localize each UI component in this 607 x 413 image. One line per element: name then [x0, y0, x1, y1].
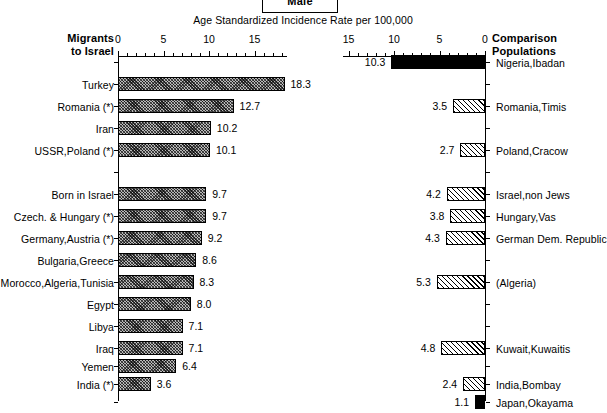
- right-row-tick: [486, 304, 490, 305]
- table-row: Turkey18.3: [0, 75, 606, 97]
- left-bar: [118, 209, 206, 223]
- right-row-tick: [486, 62, 490, 63]
- left-panel-heading-line1: Migrants: [22, 32, 114, 45]
- table-row: USSR,Poland (*)Poland,Cracow10.12.7: [0, 141, 606, 163]
- left-row-label: Libya: [89, 320, 114, 334]
- axis-title: Age Standardized Incidence Rate per 100,…: [0, 14, 606, 26]
- left-row-label: India (*): [77, 378, 114, 392]
- right-row-label: India,Bombay: [496, 378, 561, 392]
- right-axis-tick-label-10: 10: [381, 33, 407, 45]
- left-bar-value: 10.2: [217, 122, 237, 134]
- right-bar-value: 2.7: [424, 144, 454, 156]
- table-row: Bulgaria,Greece8.6: [0, 251, 606, 273]
- right-bar: [441, 341, 485, 355]
- right-bar-value: 5.3: [401, 276, 431, 288]
- sex-title-box: Male: [262, 0, 338, 13]
- left-bar-value: 9.7: [212, 188, 227, 200]
- right-bar-value: 3.8: [414, 210, 444, 222]
- left-bar: [118, 319, 183, 333]
- right-row-tick: [486, 402, 490, 403]
- left-bar: [118, 253, 196, 267]
- left-row-label: Yemen: [81, 360, 114, 374]
- left-axis-tick-label-5: 5: [151, 33, 177, 45]
- left-axis-baseline: [118, 56, 119, 401]
- right-row-label: Kuwait,Kuwaitis: [496, 342, 570, 356]
- right-row-tick: [486, 384, 490, 385]
- left-row-tick: [114, 402, 118, 403]
- right-row-tick: [486, 128, 490, 129]
- left-bar: [118, 297, 191, 311]
- right-axis-tick-label-15: 15: [336, 33, 362, 45]
- left-axis-tick-label-0: 0: [105, 33, 131, 45]
- table-row: Morocco,Algeria,Tunisia(Algeria)8.35.3: [0, 273, 606, 295]
- right-row-tick: [486, 366, 490, 367]
- right-row-label: Poland,Cracow: [496, 144, 568, 158]
- table-row: Japan,Okayama1.1: [0, 393, 606, 413]
- left-bar-value: 8.6: [202, 254, 217, 266]
- right-row-tick: [486, 106, 490, 107]
- left-row-label: Iran: [96, 122, 114, 136]
- left-bar-value: 3.6: [157, 378, 172, 390]
- table-row: Libya7.1: [0, 317, 606, 339]
- table-row: [0, 163, 606, 185]
- left-row-label: Morocco,Algeria,Tunisia: [1, 276, 114, 290]
- table-row: Czech. & Hungary (*)Hungary,Vas9.73.8: [0, 207, 606, 229]
- left-axis-tick-label-10: 10: [196, 33, 222, 45]
- right-axis-tick-label-5: 5: [427, 33, 453, 45]
- right-row-tick: [486, 238, 490, 239]
- right-row-label: Israel,non Jews: [496, 188, 570, 202]
- right-bar-value: 2.4: [427, 378, 457, 390]
- left-row-label: Germany,Austria (*): [21, 232, 114, 246]
- right-bar: [437, 275, 485, 289]
- right-axis-baseline: [485, 56, 486, 401]
- table-row: Born in IsraelIsrael,non Jews9.74.2: [0, 185, 606, 207]
- right-bar: [391, 55, 485, 69]
- left-bar-value: 6.4: [182, 360, 197, 372]
- right-row-tick: [486, 172, 490, 173]
- left-row-label: USSR,Poland (*): [34, 144, 114, 158]
- left-bar-value: 7.1: [189, 320, 204, 332]
- right-bar-value: 4.3: [410, 232, 440, 244]
- left-bar: [118, 359, 176, 373]
- left-row-label: Bulgaria,Greece: [37, 254, 114, 268]
- right-row-tick: [486, 282, 490, 283]
- left-bar: [118, 231, 202, 245]
- right-panel-heading-line1: Comparison: [492, 32, 606, 45]
- left-row-label: Iraq: [96, 342, 114, 356]
- left-bar: [118, 99, 234, 113]
- right-row-tick: [486, 260, 490, 261]
- right-bar: [446, 231, 485, 245]
- left-bar: [118, 341, 183, 355]
- left-axis-tick-label-15: 15: [242, 33, 268, 45]
- right-bar: [463, 377, 485, 391]
- left-row-label: Egypt: [87, 298, 114, 312]
- left-row-label: Romania (*): [57, 100, 114, 114]
- table-row: Germany,Austria (*)German Dem. Republic9…: [0, 229, 606, 251]
- right-row-label: (Algeria): [496, 276, 536, 290]
- table-row: Romania (*)Romania,Timis12.73.5: [0, 97, 606, 119]
- table-row: Iran10.2: [0, 119, 606, 141]
- left-row-label: Czech. & Hungary (*): [14, 210, 114, 224]
- right-bar: [450, 209, 485, 223]
- right-row-tick: [486, 326, 490, 327]
- left-bar-value: 8.3: [200, 276, 215, 288]
- right-row-label: Romania,Timis: [496, 100, 566, 114]
- left-bar-value: 7.1: [189, 342, 204, 354]
- right-row-label: German Dem. Republic: [496, 232, 607, 246]
- right-row-tick: [486, 150, 490, 151]
- left-bar-value: 10.1: [216, 144, 236, 156]
- right-bar-value: 10.3: [355, 56, 385, 68]
- table-row: Egypt8.0: [0, 295, 606, 317]
- right-bar-value: 3.5: [417, 100, 447, 112]
- left-bar: [118, 77, 285, 91]
- right-bar: [453, 99, 485, 113]
- right-axis-tick-label-0: 0: [472, 33, 498, 45]
- right-row-tick: [486, 348, 490, 349]
- right-bar-value: 1.1: [439, 396, 469, 408]
- right-bar: [460, 143, 485, 157]
- right-row-label: Japan,Okayama: [496, 396, 573, 410]
- right-row-label: Hungary,Vas: [496, 210, 556, 224]
- left-row-label: Turkey: [82, 78, 114, 92]
- right-bar: [447, 187, 485, 201]
